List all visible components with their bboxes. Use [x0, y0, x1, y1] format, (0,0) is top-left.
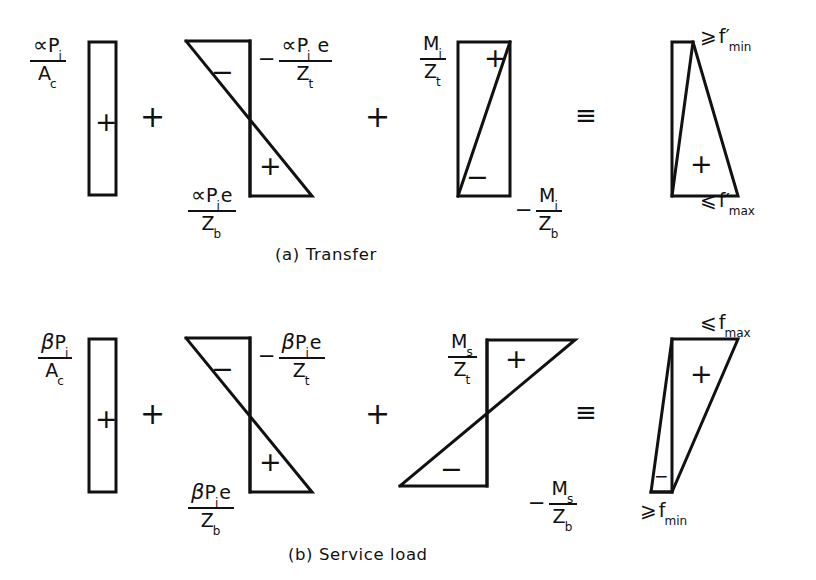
label-eccentric-service-top: − βPie Zt — [258, 331, 325, 385]
sign-plus-moment-transfer: + — [484, 44, 507, 71]
sign-minus-eccentric-service: − — [211, 355, 234, 382]
caption-service-load: (b) Service load — [288, 545, 428, 564]
sign-plus-moment-service: + — [505, 345, 528, 372]
label-moment-service-bottom: − Ms Zb — [528, 479, 577, 531]
operator-identity-b: ≡ — [575, 399, 597, 425]
sign-minus-moment-transfer: − — [466, 163, 489, 190]
label-moment-transfer-top: Mi Zt — [420, 34, 446, 86]
label-result-service-bottom: ⩾fmin — [640, 500, 688, 524]
sign-plus-result-service: + — [690, 360, 713, 387]
label-result-service-top: ⩽fmax — [700, 312, 752, 336]
label-axial-service: βPi Ac — [38, 331, 72, 385]
diagram-line-art — [0, 0, 816, 580]
sign-minus-eccentric-transfer: − — [211, 58, 234, 85]
label-axial-transfer: ∝Pi Ac — [30, 34, 66, 88]
label-result-transfer-top: ⩾f′min — [700, 26, 752, 50]
sign-plus-axial-service: + — [95, 405, 118, 432]
label-eccentric-service-bottom: βPie Zb — [188, 481, 234, 535]
label-moment-service-top: Ms Zt — [448, 332, 477, 384]
sign-plus-eccentric-transfer: + — [259, 152, 282, 179]
sign-plus-axial-transfer: + — [95, 108, 118, 135]
label-eccentric-transfer-bottom: ∝Pie Zb — [188, 184, 236, 238]
label-eccentric-transfer-top: − ∝Pi e Zt — [258, 34, 332, 88]
operator-plus-a1: + — [140, 102, 165, 132]
sign-plus-eccentric-service: + — [259, 448, 282, 475]
sign-minus-moment-service: − — [440, 455, 463, 482]
label-result-transfer-bottom: ⩽f′max — [700, 190, 756, 214]
sign-minus-result-service: − — [654, 468, 668, 485]
operator-identity-a: ≡ — [575, 102, 597, 128]
stress-diagram-figure: ∝Pi Ac + − ∝Pi e Zt ∝Pie Zb + Mi Zt − Mi… — [0, 0, 816, 580]
operator-plus-b2: + — [365, 399, 390, 429]
operator-plus-a2: + — [365, 102, 390, 132]
label-moment-transfer-bottom: − Mi Zb — [515, 186, 562, 238]
sign-plus-result-transfer: + — [690, 150, 713, 177]
operator-plus-b1: + — [140, 399, 165, 429]
caption-transfer: (a) Transfer — [275, 245, 377, 264]
